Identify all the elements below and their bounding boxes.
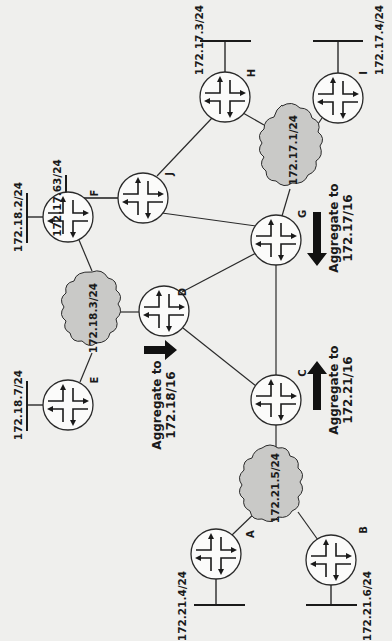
router-a[interactable] — [191, 529, 241, 579]
router-icon — [43, 380, 93, 430]
router-c[interactable] — [251, 375, 301, 425]
link-g-j — [162, 213, 256, 226]
router-letter-a: A — [245, 530, 256, 538]
router-h[interactable] — [200, 72, 250, 122]
subnet-label-h: 172.17.3/24 — [193, 5, 205, 75]
router-letter-f: F — [89, 190, 100, 197]
router-g[interactable] — [251, 215, 301, 265]
link-b-cloud-172-21-5 — [298, 512, 318, 540]
router-e[interactable] — [43, 380, 93, 430]
router-icon — [251, 375, 301, 425]
router-icon — [191, 529, 241, 579]
router-icon — [306, 535, 356, 585]
arrow-down-icon — [307, 212, 327, 266]
router-icon — [251, 215, 301, 265]
router-icon — [313, 73, 363, 123]
link-j-h — [157, 118, 212, 176]
subnet-label-a: 172.21.4/24 — [176, 571, 188, 641]
subnet-label-i: 172.17.4/24 — [373, 5, 385, 75]
aggregation-d: Aggregate to 172.18/16 — [144, 340, 178, 450]
router-letter-e: E — [89, 376, 100, 383]
cloud-label: 172.21.5/24 — [269, 453, 281, 523]
cloud-label: 172.18.3/24 — [87, 283, 99, 353]
link-d-g — [182, 253, 256, 292]
subnet-label-b: 172.21.6/24 — [361, 571, 373, 641]
cloud-172-18-3: 172.18.3/24 — [61, 271, 120, 353]
arrow-right-icon — [144, 340, 177, 360]
cloud-172-17-1: 172.17.1/24 — [259, 103, 322, 185]
aggregation-c: Aggregate to 172.21/16 — [307, 345, 355, 434]
link-g-cloud-172-17-1 — [282, 189, 290, 216]
router-letter-i: I — [358, 71, 369, 75]
router-letter-b: B — [358, 526, 369, 534]
aggregate-label-line2: 172.21/16 — [341, 356, 355, 423]
router-i[interactable] — [313, 73, 363, 123]
network-diagram: 172.18.3/24 172.21.5/24 172.17.1/24 A — [0, 0, 392, 641]
router-letter-c: C — [297, 369, 308, 376]
router-letter-j: J — [164, 172, 175, 177]
router-j[interactable] — [118, 173, 168, 223]
aggregate-label-line2: 172.17/16 — [341, 194, 355, 261]
router-letters: A B C D E F G H I J — [89, 69, 369, 538]
aggregate-label-line2: 172.18/16 — [164, 371, 178, 438]
subnet-label-j: 172.17.63/24 — [51, 159, 63, 237]
aggregate-label-line1: Aggregate to — [327, 183, 341, 272]
router-icon — [200, 72, 250, 122]
arrow-up-icon — [307, 361, 327, 410]
router-b[interactable] — [306, 535, 356, 585]
cloud-172-21-5: 172.21.5/24 — [239, 445, 302, 523]
router-icon — [118, 173, 168, 223]
subnet-label-f: 172.18.2/24 — [12, 182, 24, 252]
subnet-label-e: 172.18.7/24 — [12, 370, 24, 440]
cloud-label: 172.17.1/24 — [287, 115, 299, 185]
aggregate-label-line1: Aggregate to — [150, 360, 164, 449]
link-h-cloud-172-17-1 — [243, 113, 264, 125]
aggregate-label-line1: Aggregate to — [327, 345, 341, 434]
link-c-d — [183, 328, 256, 386]
router-letter-g: G — [297, 210, 308, 218]
link-f-cloud-172-18-3 — [79, 240, 92, 271]
aggregation-g: Aggregate to 172.17/16 — [307, 183, 355, 272]
router-letter-d: D — [177, 288, 188, 296]
router-letter-h: H — [246, 69, 257, 77]
